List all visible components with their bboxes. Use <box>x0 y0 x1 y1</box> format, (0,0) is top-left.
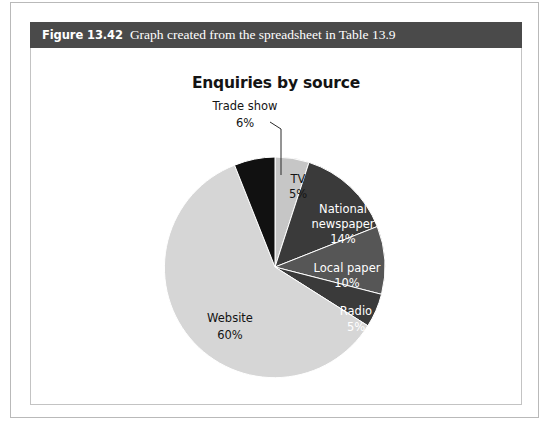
slice-value-local-paper: 10% <box>334 276 360 290</box>
slice-value-tv: 5% <box>289 187 307 201</box>
slice-label-website: Website <box>207 311 253 325</box>
slice-label-national-newspaper-line2: newspaper <box>311 217 374 231</box>
slice-label-local-paper: Local paper <box>314 261 381 275</box>
slice-label-radio: Radio <box>340 304 372 318</box>
pie-chart: TV 5% National newspaper 14% Local paper… <box>30 48 522 405</box>
figure-caption-text: Graph created from the spreadsheet in Ta… <box>130 27 396 43</box>
figure-caption-bar: Figure 13.42 Graph created from the spre… <box>30 22 522 48</box>
slice-value-national-newspaper: 14% <box>330 232 356 246</box>
figure-block: Figure 13.42 Graph created from the spre… <box>30 22 522 407</box>
callout-value-trade-show: 6% <box>236 116 254 130</box>
callout-label-trade-show: Trade show <box>212 99 278 113</box>
slice-value-website: 60% <box>217 328 243 342</box>
figure-number: Figure 13.42 <box>42 28 123 42</box>
slice-label-national-newspaper-line1: National <box>319 202 367 216</box>
pie-chart-svg: TV 5% National newspaper 14% Local paper… <box>30 48 522 405</box>
slice-value-radio: 5% <box>347 320 365 334</box>
slice-label-tv: TV <box>290 172 306 186</box>
